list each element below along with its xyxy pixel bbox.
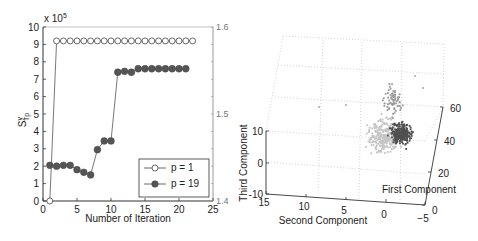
scatter-point-cluster-light: [378, 143, 380, 145]
scatter-point-cluster-dark: [402, 126, 404, 128]
scatter-point-cluster-light: [375, 131, 377, 133]
scatter-point-cluster-light: [376, 146, 378, 148]
grid-line: [443, 44, 444, 107]
x-tick-label: 0: [40, 204, 46, 215]
scatter-point-cluster-light: [378, 150, 380, 152]
scatter-point-cluster-light: [386, 140, 388, 142]
point-p1: [60, 38, 66, 44]
scatter-point-cluster-dark: [400, 135, 402, 137]
scatter-point-cluster-dark: [398, 126, 400, 128]
y-tick-label: 7: [33, 74, 39, 85]
scatter-point-cluster-dark: [392, 123, 394, 125]
scatter-point-cluster-dark: [398, 130, 400, 132]
scatter-point-cluster-mid: [392, 117, 394, 119]
scatter-point-cluster-dark: [406, 124, 408, 126]
y2-tick-label: 1.5: [216, 109, 229, 119]
y-tick-label: 3: [33, 143, 39, 154]
point-p1: [169, 38, 175, 44]
scatter-point-cluster-light: [373, 124, 375, 126]
scatter-point-cluster-mid: [399, 109, 401, 111]
y-tick-label: 4: [33, 126, 39, 137]
scatter-point-cluster-light: [378, 133, 380, 135]
scatter-point-cluster-dark: [391, 136, 393, 138]
scatter-point-outlier: [414, 75, 416, 77]
scatter-point-cluster-light: [380, 133, 382, 135]
scatter-point-cluster-light: [380, 129, 382, 131]
scatter-point-cluster-dark: [387, 135, 389, 137]
scatter-point-cluster-mid: [399, 93, 401, 95]
scatter-point-cluster-mid: [393, 96, 395, 98]
point-p1: [162, 38, 168, 44]
legend-label-p19: p = 19: [171, 178, 200, 189]
point-p19: [169, 65, 176, 72]
y-axis-label: SyTp: [16, 113, 31, 127]
scatter-point-cluster-light: [366, 124, 368, 126]
point-p19: [67, 162, 74, 169]
point-p19: [74, 166, 81, 173]
y-tick-label: 6: [33, 91, 39, 102]
scatter-point-cluster-dark: [404, 137, 406, 139]
scatter-point-cluster-light: [374, 126, 376, 128]
scatter-point-cluster-dark: [399, 140, 401, 142]
scatter-point-cluster-dark: [405, 139, 407, 141]
scatter-point-cluster-dark: [411, 131, 413, 133]
point-p19: [53, 163, 60, 170]
scatter-point-cluster-light: [389, 132, 391, 134]
point-p1: [54, 38, 60, 44]
scatter-point-cluster-dark: [394, 123, 396, 125]
scatter-point-cluster-light: [376, 136, 378, 138]
point-p19: [162, 65, 169, 72]
scatter-point-cluster-light: [368, 129, 370, 131]
scatter-point-cluster-mid: [383, 97, 385, 99]
iteration-chart: 0510152025 012345678910 1.41.51.6 x 105 …: [16, 12, 229, 224]
scatter-point-cluster-light: [389, 118, 391, 120]
scatter-point-cluster-mid: [383, 105, 385, 107]
point-p19: [94, 146, 101, 153]
first-component-label: First Component: [382, 184, 456, 195]
scatter-point-cluster-light: [368, 141, 370, 143]
z-tick-label: 0: [257, 158, 263, 169]
scatter-point-cluster-light: [370, 152, 372, 154]
scatter-point-cluster-dark: [399, 124, 401, 126]
y-tick-label: 5: [33, 109, 39, 120]
point-p19: [80, 169, 87, 176]
scatter-point-cluster-light: [390, 144, 392, 146]
first-comp-tick-label: 0: [432, 205, 438, 216]
scatter-point-cluster-light: [373, 140, 375, 142]
figure: 0510152025 012345678910 1.41.51.6 x 105 …: [0, 0, 478, 241]
scatter-point-cluster-dark: [394, 129, 396, 131]
scatter-point-cluster-light: [384, 146, 386, 148]
scatter-point-cluster-mid: [397, 98, 399, 100]
scatter-point-cluster-light: [385, 139, 387, 141]
scatter-point-cluster-light: [382, 135, 384, 137]
scatter-point-cluster-mid: [398, 96, 400, 98]
scatter-point-cluster-light: [380, 141, 382, 143]
scatter-point-cluster-mid: [393, 108, 395, 110]
scatter-point-cluster-dark: [404, 135, 406, 137]
y-tick-label: 10: [28, 22, 40, 33]
grid-line: [318, 40, 323, 196]
scatter-point-cluster-light: [379, 145, 381, 147]
point-p19: [182, 65, 189, 72]
scatter-point-cluster-dark: [407, 132, 409, 134]
scatter-point-cluster-dark: [404, 125, 406, 127]
scatter-point-cluster-mid: [400, 107, 402, 109]
point-p1: [67, 38, 73, 44]
scatter-point-outlier: [345, 104, 347, 106]
scatter-point-cluster-light: [383, 137, 385, 139]
scatter-point-cluster-mid: [387, 103, 389, 105]
grid-3d: [266, 36, 444, 202]
scatter-point-cluster-mid: [399, 101, 401, 103]
scatter-point-cluster-light: [380, 151, 382, 153]
point-p1: [115, 38, 121, 44]
scatter-point-cluster-mid: [395, 110, 397, 112]
point-p1: [81, 38, 87, 44]
scatter-point-cluster-light: [377, 120, 379, 122]
scatter-point-cluster-light: [385, 117, 387, 119]
scatter-point-cluster-mid: [389, 86, 391, 88]
scatter-point-cluster-mid: [382, 100, 384, 102]
z-tick-label: 10: [252, 126, 264, 137]
scatter-point-cluster-dark: [396, 124, 398, 126]
scatter-point-cluster-dark: [397, 134, 399, 136]
pca-3d-scatter: -10010151050−50204060 Third Component Se…: [238, 36, 462, 226]
